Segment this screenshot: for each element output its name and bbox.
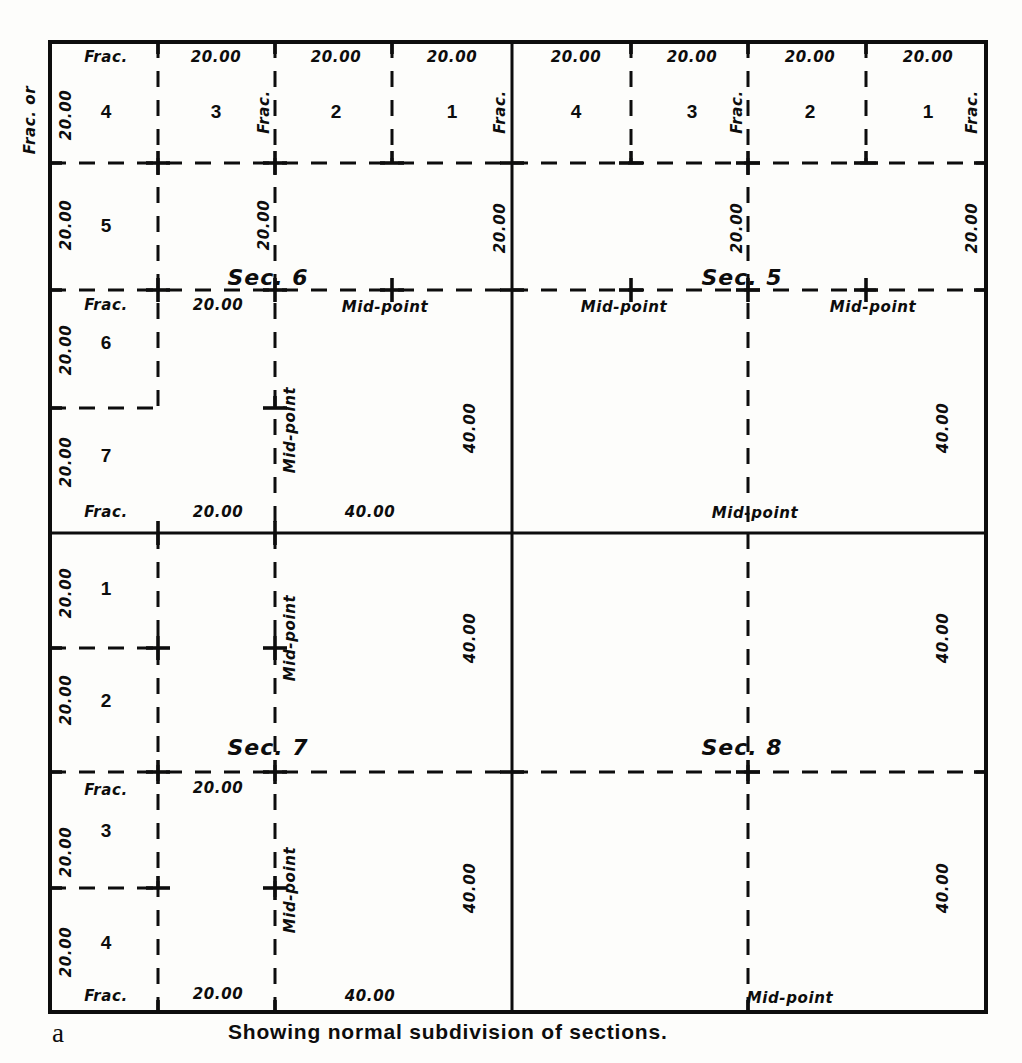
corner-marker-tee	[619, 151, 643, 163]
midpoint-marker	[263, 636, 287, 660]
corner-marker-tee	[146, 876, 170, 888]
section-divider-lines	[50, 42, 986, 1012]
corner-marker	[736, 151, 760, 175]
corner-marker	[263, 151, 287, 175]
panel-letter: a	[52, 1018, 64, 1049]
figure-caption: Showing normal subdivision of sections.	[228, 1020, 668, 1044]
outer-frame	[50, 42, 986, 1012]
corner-marker-tee	[854, 151, 878, 163]
subdivision-lines	[50, 42, 986, 1012]
midpoint-marker	[263, 876, 287, 900]
corner-markers	[50, 42, 986, 1012]
corner-marker	[146, 151, 170, 175]
corner-marker-tee	[146, 636, 170, 660]
midpoint-marker	[619, 278, 643, 302]
figure-normal-subdivision-of-sections: Frac. or20.00Frac.20.0020.0020.00Frac.Fr…	[0, 0, 1022, 1063]
corner-marker	[263, 760, 287, 784]
corner-marker	[263, 278, 287, 302]
midpoint-marker	[380, 278, 404, 302]
corner-marker-tee	[380, 151, 404, 163]
corner-marker	[146, 760, 170, 784]
corner-marker	[146, 278, 170, 302]
midpoint-marker-tee	[263, 396, 287, 408]
midpoint-marker	[854, 278, 878, 302]
plat-drawing	[0, 0, 1022, 1063]
corner-marker	[736, 760, 760, 784]
corner-marker	[736, 278, 760, 302]
